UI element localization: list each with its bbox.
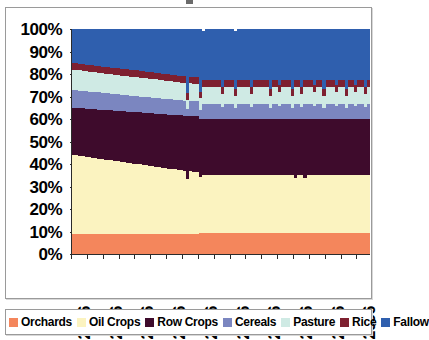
x-tick-mark (103, 254, 104, 259)
legend-label: Orchards (21, 316, 72, 328)
x-tick-mark (325, 254, 326, 259)
plot-area (71, 29, 370, 255)
x-tick-mark (134, 254, 135, 259)
legend-swatch-icon (77, 318, 86, 327)
y-tick-label: 60% (29, 111, 62, 128)
y-tick-label: 80% (29, 66, 62, 83)
legend-label: Rice (352, 316, 376, 328)
x-tick-mark-minor (182, 254, 183, 259)
x-tick-mark (293, 254, 294, 259)
area-series-orchards (72, 233, 370, 254)
x-tick-mark (166, 254, 167, 259)
legend-swatch-icon (340, 318, 349, 327)
x-tick-mark-minor (87, 254, 88, 259)
x-tick-mark (71, 254, 72, 259)
x-tick-mark-minor (309, 254, 310, 259)
x-axis-labels: 2006201620262036204620562066207620862096 (71, 260, 370, 308)
legend-swatch-icon (145, 318, 154, 327)
plot-wrapper: 100%90%80%70%60%50%40%30%20%10%0% 200620… (6, 8, 371, 298)
x-tick-mark (356, 254, 357, 259)
y-tick-label: 30% (29, 178, 62, 195)
legend-item-row-crops[interactable]: Row Crops (145, 316, 218, 328)
legend-item-oil-crops[interactable]: Oil Crops (77, 316, 140, 328)
y-tick-label: 90% (29, 43, 62, 60)
legend-item-cereals[interactable]: Cereals (223, 316, 276, 328)
legend-label: Fallow (393, 316, 429, 328)
y-tick-label: 0% (38, 246, 62, 263)
stacked-area-svg (72, 29, 370, 254)
y-axis-labels: 100%90%80%70%60%50%40%30%20%10%0% (6, 22, 66, 248)
legend-swatch-icon (223, 318, 232, 327)
legend-label: Row Crops (157, 316, 218, 328)
legend-swatch-icon (381, 318, 390, 327)
x-tick-mark (198, 254, 199, 259)
legend-swatch-icon (9, 318, 18, 327)
legend-swatch-icon (281, 318, 290, 327)
y-tick-label: 40% (29, 156, 62, 173)
x-tick-mark-minor (277, 254, 278, 259)
y-tick-label: 100% (21, 21, 62, 38)
x-tick-mark-minor (245, 254, 246, 259)
chart-panel: 100%90%80%70%60%50%40%30%20%10%0% 200620… (5, 7, 372, 299)
legend-item-rice[interactable]: Rice (340, 316, 376, 328)
y-tick-label: 20% (29, 201, 62, 218)
x-tick-mark-minor (119, 254, 120, 259)
x-axis-ticks (71, 254, 370, 259)
legend-label: Cereals (235, 316, 276, 328)
legend-label: Pasture (293, 316, 335, 328)
x-tick-mark-minor (214, 254, 215, 259)
chart-legend: OrchardsOil CropsRow CropsCerealsPasture… (5, 309, 372, 335)
y-tick-label: 50% (29, 133, 62, 150)
x-tick-mark (230, 254, 231, 259)
legend-item-pasture[interactable]: Pasture (281, 316, 335, 328)
crop-artifact (186, 0, 193, 4)
x-tick-mark-minor (341, 254, 342, 259)
x-tick-mark (261, 254, 262, 259)
y-tick-label: 10% (29, 223, 62, 240)
legend-label: Oil Crops (89, 316, 140, 328)
y-tick-label: 70% (29, 88, 62, 105)
x-tick-mark-minor (150, 254, 151, 259)
legend-item-fallow[interactable]: Fallow (381, 316, 429, 328)
legend-item-orchards[interactable]: Orchards (9, 316, 72, 328)
